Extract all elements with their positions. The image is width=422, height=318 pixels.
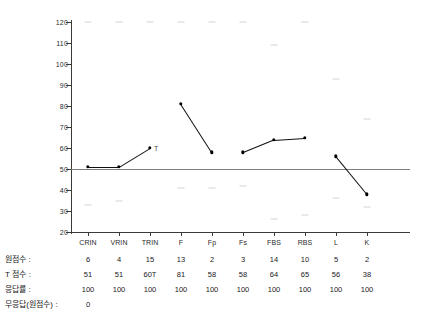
table-cell: 2 [365, 252, 369, 267]
y-axis-tick-label: 110 [56, 40, 68, 47]
table-cell: 100 [206, 282, 219, 297]
x-axis-label-fs: Fs [239, 239, 247, 246]
profile-line-segment [88, 167, 119, 168]
x-axis-tick [305, 232, 306, 236]
y-axis-tick-label: 40 [60, 187, 68, 194]
table-cell: 6 [86, 252, 90, 267]
table-cell: 100 [330, 282, 343, 297]
reference-mark [240, 22, 247, 23]
profile-line-segment [180, 104, 212, 153]
profile-line-segment [274, 137, 305, 140]
table-cell: 64 [270, 267, 278, 282]
x-axis-label-crin: CRIN [79, 239, 97, 246]
reference-mark [85, 22, 92, 23]
x-axis-tick [274, 232, 275, 236]
plot-area: 2030405060708090100110120CRINVRINTRINFFp… [71, 22, 410, 232]
table-cell: 10 [301, 252, 309, 267]
table-row-label: 무응답(원점수) : [5, 297, 58, 312]
reference-mark [147, 22, 154, 23]
table-cell: 60T [144, 267, 157, 282]
profile-line-segment [335, 156, 367, 194]
table-cell: 4 [117, 252, 121, 267]
data-point-k[interactable] [365, 192, 368, 195]
x-axis-tick [119, 232, 120, 236]
table-cell: 58 [239, 267, 247, 282]
reference-mark [178, 22, 185, 23]
reference-mark [240, 185, 247, 186]
table-cell: 65 [301, 267, 309, 282]
reference-mark [271, 45, 278, 46]
table-cell: 56 [332, 267, 340, 282]
table-row: T 점수 :515160T81585864655638 [0, 267, 422, 282]
table-cell: 100 [299, 282, 312, 297]
reference-mark [209, 187, 216, 188]
table-cell: 14 [270, 252, 278, 267]
table-row: 응답률 :100100100100100100100100100100 [0, 282, 422, 297]
score-table: 원점수 :64151323141052T 점수 :515160T81585864… [0, 248, 422, 318]
x-axis-label-fbs: FBS [267, 239, 281, 246]
x-axis-tick [243, 232, 244, 236]
reference-mark [271, 219, 278, 220]
y-axis-tick-label: 90 [60, 82, 68, 89]
x-axis-label-trin: TRIN [142, 239, 159, 246]
table-cell: 58 [208, 267, 216, 282]
reference-mark [333, 78, 340, 79]
table-cell: 51 [115, 267, 123, 282]
mmpi-validity-scale-profile: 2030405060708090100110120CRINVRINTRINFFp… [0, 0, 422, 318]
reference-mark [85, 204, 92, 205]
data-point-fs[interactable] [241, 150, 244, 153]
table-row: 무응답(원점수) :0 [0, 297, 422, 312]
table-cell: 38 [363, 267, 371, 282]
table-row-label: 응답률 : [5, 282, 31, 297]
reference-mark [302, 215, 309, 216]
x-axis-tick [150, 232, 151, 236]
x-axis-tick [181, 232, 182, 236]
profile-chart: 2030405060708090100110120CRINVRINTRINFFp… [0, 0, 422, 248]
reference-mark [333, 198, 340, 199]
reference-mark [364, 206, 371, 207]
x-axis-tick [367, 232, 368, 236]
reference-mark [116, 200, 123, 201]
y-axis-tick-label: 60 [60, 145, 68, 152]
x-axis-label-l: L [334, 239, 338, 246]
reference-line-t50 [71, 169, 410, 170]
table-cell: 100 [82, 282, 95, 297]
table-cell: 5 [334, 252, 338, 267]
table-cell: 2 [210, 252, 214, 267]
x-axis-label-k: K [365, 239, 370, 246]
point-annotation-trin: T [154, 145, 158, 152]
table-row: 원점수 :64151323141052 [0, 252, 422, 267]
x-axis-tick [88, 232, 89, 236]
table-cell: 100 [361, 282, 374, 297]
table-cell: 100 [113, 282, 126, 297]
profile-line-segment [119, 148, 151, 168]
x-axis-label-fp: Fp [208, 239, 216, 246]
x-axis-label-vrin: VRIN [110, 239, 127, 246]
y-axis-tick-label: 20 [60, 229, 68, 236]
y-axis-tick-label: 50 [60, 166, 68, 173]
table-cell: 100 [144, 282, 157, 297]
reference-mark [178, 187, 185, 188]
table-row-label: 원점수 : [5, 252, 31, 267]
x-axis-label-f: F [179, 239, 183, 246]
profile-line-segment [243, 140, 274, 154]
reference-mark [209, 22, 216, 23]
y-axis-tick-label: 120 [56, 19, 68, 26]
y-axis-tick-label: 30 [60, 208, 68, 215]
data-point-rbs[interactable] [303, 136, 306, 139]
reference-mark [364, 118, 371, 119]
reference-mark [302, 22, 309, 23]
data-point-trin[interactable] [148, 146, 151, 149]
table-cell: 3 [241, 252, 245, 267]
x-axis-line [71, 232, 410, 233]
y-axis-tick-label: 70 [60, 124, 68, 131]
x-axis-label-rbs: RBS [298, 239, 313, 246]
table-cell: 51 [84, 267, 92, 282]
table-cell: 100 [268, 282, 281, 297]
data-point-fp[interactable] [210, 150, 213, 153]
table-cell: 100 [237, 282, 250, 297]
table-cell: 15 [146, 252, 154, 267]
table-row-label: T 점수 : [5, 267, 31, 282]
y-axis-tick-label: 80 [60, 103, 68, 110]
table-cell: 0 [86, 297, 90, 312]
